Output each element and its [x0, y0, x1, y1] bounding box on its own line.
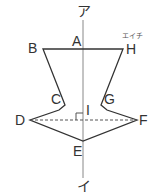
point-d-label: D: [15, 113, 25, 127]
point-g-label: G: [104, 92, 115, 106]
point-i-label: I: [86, 103, 90, 117]
point-e-label: E: [73, 144, 82, 158]
h-reading-label: エイチ: [122, 32, 143, 39]
point-f-label: F: [139, 113, 148, 127]
point-c-label: C: [51, 92, 61, 106]
axis-bottom-label: イ: [77, 179, 91, 193]
point-b-label: B: [28, 41, 37, 55]
figure-canvas: [0, 0, 158, 195]
axis-top-label: ア: [77, 4, 91, 18]
right-angle-mark: [76, 113, 83, 120]
point-h-label: H: [126, 42, 136, 56]
point-a-label: A: [72, 34, 81, 48]
